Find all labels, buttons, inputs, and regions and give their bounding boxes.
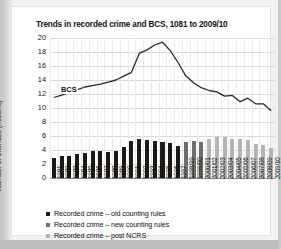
x-axis-tick: 1984: [80, 166, 87, 179]
x-axis-tick: 1982: [64, 166, 71, 179]
y-axis-tick: 18: [30, 47, 46, 56]
y-axis-tick: 6: [30, 131, 46, 140]
x-axis-tick: 2007/08: [258, 157, 265, 179]
legend-item: Recorded crime – old counting rules: [46, 208, 169, 219]
x-axis-tick: 1988: [111, 166, 118, 179]
y-axis-tick: 20: [30, 33, 46, 42]
x-axis-tick: 1993: [149, 166, 156, 179]
legend-swatch-icon: [46, 223, 50, 227]
x-axis-tick: 1985: [87, 166, 94, 179]
chart-title: Trends in recorded crime and BCS, 1081 t…: [36, 20, 276, 29]
x-axis-tick: 1996: [173, 166, 180, 179]
x-axis-tick: 1999/00: [196, 157, 203, 179]
y-axis-tick: 2: [30, 159, 46, 168]
legend-item: Recorded crime – new counting rules: [46, 219, 169, 230]
legend-swatch-icon: [46, 212, 50, 216]
y-axis-tick: 10: [30, 103, 46, 112]
legend-label: Recorded crime – post NCRS: [54, 231, 146, 240]
bcs-annotation: BCS: [60, 85, 78, 94]
legend-swatch-icon: [46, 234, 50, 238]
chart-legend: Recorded crime – old counting rulesRecor…: [46, 208, 169, 241]
x-axis-tick: 1987: [103, 166, 110, 179]
page-bottom-edge: [0, 240, 278, 249]
x-axis-tick: 1994: [157, 166, 164, 179]
x-axis-tick: 2003/04: [227, 157, 234, 179]
x-axis-tick: 2006/07: [250, 157, 257, 179]
y-axis-tick: 4: [30, 145, 46, 154]
x-axis-tick: 2002/03: [219, 157, 226, 179]
y-axis-tick: 12: [30, 89, 46, 98]
x-axis-tick: 1986: [95, 166, 102, 179]
x-axis-tick: 2004/05: [235, 157, 242, 179]
x-axis-labels: 1981198219831984198519861987198819891990…: [50, 179, 275, 209]
x-axis-tick: 2001/02: [211, 157, 218, 179]
legend-label: Recorded crime – new counting rules: [54, 220, 169, 229]
page-background: Trends in recorded crime and BCS, 1081 t…: [0, 0, 278, 249]
chart-card: Trends in recorded crime and BCS, 1081 t…: [12, 7, 270, 235]
x-axis-tick: 1990: [126, 166, 133, 179]
x-axis-tick: 1989: [118, 166, 125, 179]
y-axis-tick: 8: [30, 117, 46, 126]
x-axis-tick: 1991: [134, 166, 141, 179]
y-axis-tick: 16: [30, 61, 46, 70]
x-axis-tick: 2000/01: [204, 157, 211, 179]
y-axis-tick: 0: [30, 173, 46, 182]
y-axis-tick: 14: [30, 75, 46, 84]
x-axis-tick: 2005/06: [242, 157, 249, 179]
legend-label: Recorded crime – old counting rules: [54, 209, 166, 218]
x-axis-tick: 1998/99: [188, 157, 195, 179]
x-axis-tick: 2008/09: [266, 157, 273, 179]
x-axis-tick: 2009/10: [274, 157, 278, 179]
x-axis-tick: 1983: [72, 166, 79, 179]
x-axis-tick: 1981: [56, 166, 63, 179]
x-axis-tick: 1997: [180, 166, 187, 179]
y-axis-label: Number of offences (millions): [0, 51, 3, 191]
x-axis-tick: 1995: [165, 166, 172, 179]
x-axis-tick: 1992: [142, 166, 149, 179]
